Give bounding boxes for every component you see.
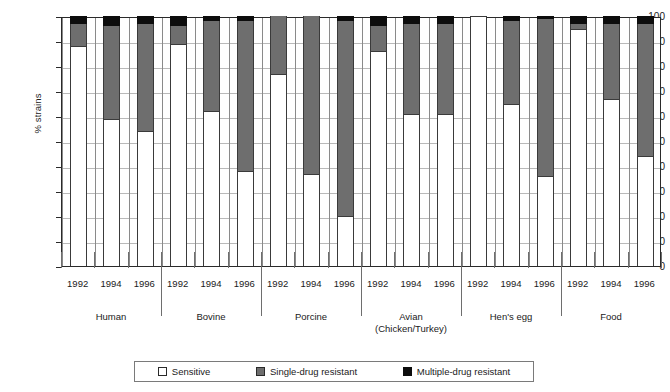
bar-segment-sensitive[interactable] bbox=[370, 51, 387, 266]
x-axis: 199219941996Human199219941996Bovine19921… bbox=[61, 268, 661, 338]
category-divider bbox=[262, 18, 263, 266]
bar-segment-multiple-drug-resistant[interactable] bbox=[203, 16, 220, 21]
group-label-text: Human bbox=[96, 311, 127, 322]
table-row[interactable] bbox=[337, 16, 354, 266]
table-row[interactable] bbox=[170, 16, 187, 266]
bar-segment-single-drug-resistant[interactable] bbox=[203, 21, 220, 111]
bar-segment-multiple-drug-resistant[interactable] bbox=[603, 16, 620, 24]
table-row[interactable] bbox=[203, 16, 220, 266]
bar-segment-sensitive[interactable] bbox=[603, 99, 620, 267]
table-row[interactable] bbox=[503, 16, 520, 266]
bar-segment-sensitive[interactable] bbox=[203, 111, 220, 266]
bar-segment-sensitive[interactable] bbox=[470, 16, 487, 266]
bar-segment-sensitive[interactable] bbox=[103, 119, 120, 267]
bar-segment-sensitive[interactable] bbox=[170, 44, 187, 267]
bar-segment-single-drug-resistant[interactable] bbox=[170, 26, 187, 44]
category-divider bbox=[162, 18, 163, 266]
table-row[interactable] bbox=[437, 16, 454, 266]
bar-segment-sensitive[interactable] bbox=[137, 131, 154, 266]
x-axis-tick-mark bbox=[261, 252, 262, 268]
bar-segment-multiple-drug-resistant[interactable] bbox=[70, 16, 87, 24]
bar-slot bbox=[162, 18, 195, 266]
bar-slot bbox=[295, 18, 328, 266]
legend-label: Multiple-drug resistant bbox=[417, 366, 510, 377]
bar-segment-sensitive[interactable] bbox=[503, 104, 520, 267]
bar-segment-multiple-drug-resistant[interactable] bbox=[337, 16, 354, 21]
bar-segment-single-drug-resistant[interactable] bbox=[370, 26, 387, 51]
category-divider bbox=[329, 18, 330, 266]
bar-segment-sensitive[interactable] bbox=[437, 114, 454, 267]
bar-segment-sensitive[interactable] bbox=[570, 29, 587, 267]
table-row[interactable] bbox=[103, 16, 120, 266]
y-axis-label: % strains bbox=[32, 79, 43, 149]
category-divider bbox=[595, 18, 596, 266]
bar-segment-multiple-drug-resistant[interactable] bbox=[170, 16, 187, 26]
group-label-text: Bovine bbox=[196, 311, 225, 322]
bar-segment-single-drug-resistant[interactable] bbox=[270, 16, 287, 74]
table-row[interactable] bbox=[570, 16, 587, 266]
bar-segment-single-drug-resistant[interactable] bbox=[103, 26, 120, 119]
table-row[interactable] bbox=[70, 16, 87, 266]
bar-slot bbox=[629, 18, 662, 266]
table-row[interactable] bbox=[403, 16, 420, 266]
bar-segment-sensitive[interactable] bbox=[403, 114, 420, 267]
table-row[interactable] bbox=[537, 16, 554, 266]
bar-segment-sensitive[interactable] bbox=[270, 74, 287, 267]
table-row[interactable] bbox=[237, 16, 254, 266]
bar-slot bbox=[429, 18, 462, 266]
group-separator-axis bbox=[461, 268, 462, 316]
bar-segment-multiple-drug-resistant[interactable] bbox=[103, 16, 120, 26]
table-row[interactable] bbox=[370, 16, 387, 266]
bar-segment-sensitive[interactable] bbox=[537, 176, 554, 266]
x-axis-tick-mark bbox=[294, 252, 295, 268]
bar-segment-multiple-drug-resistant[interactable] bbox=[537, 16, 554, 19]
bar-slot bbox=[395, 18, 428, 266]
x-axis-tick-mark bbox=[128, 252, 129, 268]
bar-segment-multiple-drug-resistant[interactable] bbox=[403, 16, 420, 24]
bar-segment-single-drug-resistant[interactable] bbox=[337, 21, 354, 216]
x-axis-tick-mark bbox=[461, 252, 462, 268]
bar-segment-multiple-drug-resistant[interactable] bbox=[370, 16, 387, 26]
bar-segment-single-drug-resistant[interactable] bbox=[70, 24, 87, 47]
table-row[interactable] bbox=[470, 16, 487, 266]
bar-segment-single-drug-resistant[interactable] bbox=[503, 21, 520, 104]
bar-slot bbox=[129, 18, 162, 266]
legend-item[interactable]: Multiple-drug resistant bbox=[403, 366, 510, 377]
bar-segment-single-drug-resistant[interactable] bbox=[537, 19, 554, 177]
bar-segment-single-drug-resistant[interactable] bbox=[603, 24, 620, 99]
table-row[interactable] bbox=[603, 16, 620, 266]
bar-segment-multiple-drug-resistant[interactable] bbox=[137, 16, 154, 24]
bar-segment-multiple-drug-resistant[interactable] bbox=[503, 16, 520, 21]
table-row[interactable] bbox=[303, 16, 320, 266]
legend-item[interactable]: Single-drug resistant bbox=[256, 366, 357, 377]
bar-segment-multiple-drug-resistant[interactable] bbox=[237, 16, 254, 21]
table-row[interactable] bbox=[137, 16, 154, 266]
bar-segment-sensitive[interactable] bbox=[70, 46, 87, 266]
bar-segment-sensitive[interactable] bbox=[303, 174, 320, 267]
category-divider bbox=[295, 18, 296, 266]
bar-segment-multiple-drug-resistant[interactable] bbox=[437, 16, 454, 24]
x-axis-tick-mark bbox=[361, 252, 362, 268]
bar-segment-sensitive[interactable] bbox=[237, 171, 254, 266]
table-row[interactable] bbox=[637, 16, 654, 266]
chart-legend: SensitiveSingle-drug resistantMultiple-d… bbox=[134, 361, 534, 382]
bar-segment-single-drug-resistant[interactable] bbox=[637, 24, 654, 157]
bar-slot bbox=[95, 18, 128, 266]
legend-item[interactable]: Sensitive bbox=[158, 366, 211, 377]
bar-segment-single-drug-resistant[interactable] bbox=[570, 24, 587, 29]
bar-slot bbox=[362, 18, 395, 266]
bar-segment-single-drug-resistant[interactable] bbox=[437, 24, 454, 114]
x-axis-tick-mark bbox=[494, 252, 495, 268]
table-row[interactable] bbox=[270, 16, 287, 266]
x-axis-tick-mark bbox=[661, 252, 662, 268]
bar-segment-single-drug-resistant[interactable] bbox=[403, 24, 420, 114]
bar-slot bbox=[262, 18, 295, 266]
bar-segment-sensitive[interactable] bbox=[637, 156, 654, 266]
bar-segment-sensitive[interactable] bbox=[337, 216, 354, 266]
category-divider bbox=[462, 18, 463, 266]
bar-segment-multiple-drug-resistant[interactable] bbox=[570, 16, 587, 24]
bar-segment-multiple-drug-resistant[interactable] bbox=[637, 16, 654, 24]
bar-segment-single-drug-resistant[interactable] bbox=[303, 16, 320, 174]
bar-segment-single-drug-resistant[interactable] bbox=[137, 24, 154, 132]
bar-segment-single-drug-resistant[interactable] bbox=[237, 21, 254, 171]
